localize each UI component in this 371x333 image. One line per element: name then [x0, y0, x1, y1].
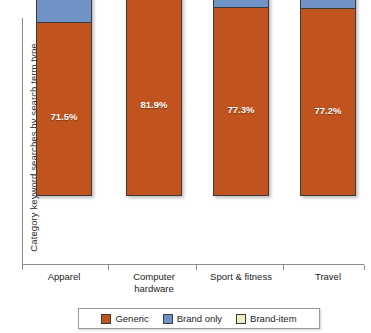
x-axis-tick	[108, 265, 109, 270]
stacked-bar-chart: Category keyword searches by search term…	[0, 0, 371, 333]
bar-segment-generic[interactable]: 71.5%	[36, 22, 92, 196]
x-axis-tick	[196, 265, 197, 270]
bar-stack[interactable]: 21.2%77.2%	[300, 0, 356, 196]
legend-label: Generic	[115, 313, 148, 324]
category-label-line: Sport & fitness	[196, 271, 286, 283]
plot-area: 1.0%27.5%71.5%3.8%14.3%81.9%0.3%22.4%77.…	[0, 0, 371, 265]
bar-segment-brand-only[interactable]: 21.2%	[300, 0, 356, 8]
legend-swatch-icon	[163, 314, 173, 324]
legend-label: Brand-item	[250, 313, 296, 324]
category-label-line: Travel	[283, 271, 371, 283]
category-label-line: Apparel	[19, 271, 109, 283]
category-label-line: Computer	[109, 271, 199, 283]
bar-segment-brand-only[interactable]: 22.4%	[213, 0, 269, 7]
x-axis-tick	[364, 265, 365, 270]
bar-segment-generic[interactable]: 77.3%	[213, 7, 269, 196]
legend-swatch-icon	[236, 314, 246, 324]
bar-segment-generic[interactable]: 81.9%	[126, 0, 182, 196]
bar-segment-label-generic: 71.5%	[51, 112, 78, 122]
bar-stack[interactable]: 14.3%81.9%	[126, 0, 182, 196]
x-axis-category-label: Sport & fitness	[196, 271, 286, 283]
x-axis-category-label: Travel	[283, 271, 371, 283]
x-axis-tick	[22, 265, 23, 270]
x-axis-tick	[283, 265, 284, 270]
legend-item[interactable]: Brand only	[163, 313, 222, 324]
chart-legend: GenericBrand onlyBrand-item	[78, 308, 320, 329]
bar-stack[interactable]: 27.5%71.5%	[36, 0, 92, 196]
legend-item[interactable]: Generic	[101, 313, 148, 324]
x-axis-category-label: Apparel	[19, 271, 109, 283]
bar-segment-label-generic: 77.2%	[315, 106, 342, 116]
legend-swatch-icon	[101, 314, 111, 324]
bar-segment-brand-only[interactable]: 27.5%	[36, 0, 92, 22]
category-label-line: hardware	[109, 283, 199, 295]
bar-segment-label-generic: 77.3%	[228, 105, 255, 115]
legend-label: Brand only	[177, 313, 222, 324]
x-axis-category-label: Computerhardware	[109, 271, 199, 294]
bar-segment-label-generic: 81.9%	[141, 100, 168, 110]
bar-stack[interactable]: 22.4%77.3%	[213, 0, 269, 196]
legend-item[interactable]: Brand-item	[236, 313, 296, 324]
bar-segment-generic[interactable]: 77.2%	[300, 8, 356, 196]
